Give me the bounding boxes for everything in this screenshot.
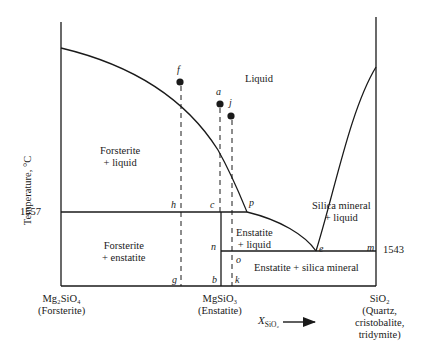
field-enstatite-liquid: Enstatite+ liquid xyxy=(236,227,273,251)
label-o: o xyxy=(236,254,241,265)
field-forsterite-enstatite: Forsterite+ enstatite xyxy=(102,240,146,264)
label-a: a xyxy=(216,86,221,97)
label-p: p xyxy=(249,197,254,208)
field-silica-liquid: Silica mineral+ liquid xyxy=(312,200,371,224)
point-a-marker xyxy=(216,100,223,107)
label-m: m xyxy=(367,242,374,253)
label-h: h xyxy=(171,199,176,210)
label-e: e xyxy=(319,243,323,254)
label-j: j xyxy=(229,97,232,108)
endmember-enstatite: MgSiO₃(Enstatite) xyxy=(198,293,242,317)
point-f-marker xyxy=(176,78,183,85)
label-k: k xyxy=(235,274,239,285)
label-g: g xyxy=(172,274,177,285)
field-forsterite-liquid: Forsterite+ liquid xyxy=(100,145,140,169)
label-b: b xyxy=(212,274,217,285)
label-n: n xyxy=(211,241,216,252)
x-axis-label: XSiO₂ xyxy=(258,314,279,331)
point-j-marker xyxy=(227,112,234,119)
field-enstatite-silica: Enstatite + silica mineral xyxy=(254,262,359,274)
endmember-forsterite: Mg₂SiO₄(Forsterite) xyxy=(38,293,85,317)
arrow-right-icon xyxy=(303,317,316,327)
label-c: c xyxy=(210,199,214,210)
tick-1543: 1543 xyxy=(383,244,404,255)
endmember-silica: SiO₂ (Quartz, cristobalite, tridymite) xyxy=(355,293,404,341)
forsterite-liquidus-curve xyxy=(61,48,247,212)
field-liquid: Liquid xyxy=(245,73,273,85)
tick-1557: 1557 xyxy=(20,206,41,217)
label-f: f xyxy=(177,64,180,75)
y-axis-label: Temperature, °C xyxy=(22,136,33,246)
